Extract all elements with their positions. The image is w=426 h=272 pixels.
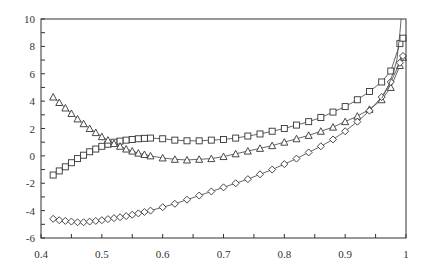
diamond-marker [293, 155, 300, 162]
square-marker [68, 160, 74, 166]
diamond-marker [129, 211, 136, 218]
square-marker [281, 126, 287, 132]
diamond-marker [80, 219, 87, 226]
diamond-marker [86, 218, 93, 225]
diamond-marker [56, 217, 63, 224]
diamond-marker [68, 218, 75, 225]
diamond-marker [117, 214, 124, 221]
square-marker [367, 89, 373, 95]
diamond-marker [317, 143, 324, 150]
diamond-marker [269, 166, 276, 173]
square-marker [75, 156, 81, 162]
square-marker [221, 136, 227, 142]
chart-canvas: -6-4-202468100.40.50.60.70.80.91 [0, 0, 426, 272]
diamond-marker [184, 196, 191, 203]
triangle-marker [98, 133, 105, 140]
diamond-marker [196, 192, 203, 199]
y-tick-label: 10 [24, 13, 36, 25]
series-layer [50, 19, 407, 226]
square-marker [148, 135, 154, 141]
diamond-marker [62, 217, 69, 224]
diamond-marker [147, 207, 154, 214]
square-marker [354, 97, 360, 103]
triangle-marker [135, 150, 142, 157]
x-tick-label: 0.7 [217, 248, 231, 260]
triangle-marker [80, 120, 87, 127]
diamond-marker [50, 215, 57, 222]
x-tick-label: 0.9 [338, 248, 352, 260]
triangle-marker [330, 124, 337, 131]
y-tick-label: 2 [30, 123, 36, 135]
y-tick-label: -2 [26, 177, 35, 189]
y-tick-label: -6 [26, 232, 36, 244]
square-marker [342, 104, 348, 110]
y-tick-label: 0 [30, 150, 36, 162]
y-tick-label: 4 [30, 95, 36, 107]
diamond-marker [330, 136, 337, 143]
series-squares [50, 35, 406, 178]
diamond-marker [257, 171, 264, 178]
square-marker [306, 119, 312, 125]
triangle-marker [50, 94, 57, 101]
triangle-marker [129, 148, 136, 155]
square-marker [81, 152, 87, 158]
y-tick-label: 6 [30, 68, 36, 80]
square-marker [379, 79, 385, 85]
square-marker [172, 137, 178, 143]
series-line [53, 38, 403, 175]
diamond-marker [141, 208, 148, 215]
triangle-marker [86, 125, 93, 132]
square-marker [160, 136, 166, 142]
square-marker [93, 146, 99, 152]
line-chart: -6-4-202468100.40.50.60.70.80.91 [0, 0, 426, 272]
diamond-marker [208, 188, 215, 195]
x-tick-label: 1 [403, 248, 409, 260]
y-tick-label: 8 [30, 40, 36, 52]
triangle-marker [305, 132, 312, 139]
square-marker [50, 172, 56, 178]
y-tick-label: -4 [26, 205, 36, 217]
diamond-marker [244, 176, 251, 183]
square-marker [208, 137, 214, 143]
square-marker [129, 136, 135, 142]
diamond-marker [92, 217, 99, 224]
square-marker [257, 131, 263, 137]
diamond-marker [159, 204, 166, 211]
x-tick-label: 0.8 [277, 248, 291, 260]
diamond-marker [281, 161, 288, 168]
square-marker [87, 149, 93, 155]
square-marker [269, 128, 275, 134]
square-marker [135, 136, 141, 142]
triangle-marker [342, 118, 349, 125]
diamond-marker [104, 216, 111, 223]
diamond-marker [232, 180, 239, 187]
x-tick-label: 0.4 [34, 248, 48, 260]
square-marker [330, 109, 336, 115]
square-marker [56, 168, 62, 174]
square-marker [184, 138, 190, 144]
diamond-marker [305, 149, 312, 156]
triangle-marker [92, 129, 99, 136]
x-tick-label: 0.6 [156, 248, 170, 260]
square-marker [196, 138, 202, 144]
square-marker [233, 135, 239, 141]
x-tick-label: 0.5 [95, 248, 109, 260]
diamond-marker [171, 200, 178, 207]
square-marker [294, 122, 300, 128]
diamond-marker [98, 217, 105, 224]
diamond-marker [220, 184, 227, 191]
triangle-marker [317, 128, 324, 135]
square-marker [123, 137, 129, 143]
square-marker [245, 133, 251, 139]
square-marker [99, 143, 105, 149]
diamond-marker [111, 215, 118, 222]
square-marker [141, 135, 147, 141]
square-marker [400, 35, 406, 41]
diamond-marker [123, 213, 130, 220]
square-marker [62, 164, 68, 170]
diamond-marker [135, 210, 142, 217]
square-marker [318, 115, 324, 121]
